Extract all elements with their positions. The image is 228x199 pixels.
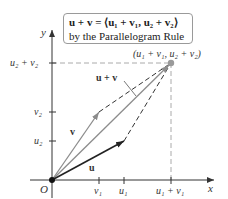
x-tick-label-v1: v₁ xyxy=(94,186,102,196)
sum-point-label: (u₁ + v₁, u₂ + v₂) xyxy=(133,49,201,59)
sum-point xyxy=(168,60,174,66)
y-tick-label-u2: u₂ xyxy=(34,136,42,146)
x-tick-label-u1: u₁ xyxy=(119,186,127,196)
vector-u-label: u xyxy=(89,163,95,173)
vector-u xyxy=(52,141,124,180)
vector-v-label: v xyxy=(70,127,75,137)
dashed-side-from-v xyxy=(99,63,171,112)
y-tick-label-v2: v₂ xyxy=(34,107,42,117)
vector-sum-label: u + v xyxy=(96,73,117,83)
x-axis-label: x xyxy=(208,183,213,193)
x-tick-label-u1v1: u₁ + v₁ xyxy=(156,186,184,196)
origin-point xyxy=(49,177,55,183)
origin-label: O xyxy=(40,184,48,194)
caption-text: by the Parallelogram Rule xyxy=(69,29,192,43)
y-tick-label-u2v2: u₂ + v₂ xyxy=(10,58,38,68)
y-axis-label: y xyxy=(41,27,46,37)
caption-box: u + v = ⟨u₁ + v₁, u₂ + v₂⟩ by the Parall… xyxy=(63,13,193,44)
caption-formula: u + v = ⟨u₁ + v₁, u₂ + v₂⟩ xyxy=(69,15,192,29)
